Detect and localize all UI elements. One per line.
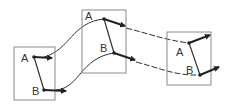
velocity-vector-b bbox=[114, 53, 135, 60]
point-a bbox=[32, 55, 36, 59]
velocity-vector-a bbox=[189, 35, 210, 43]
label-a: A bbox=[85, 10, 93, 22]
velocity-vector-b bbox=[200, 67, 219, 75]
frame-1: A B bbox=[14, 47, 66, 100]
frame-3: A B bbox=[167, 32, 219, 85]
point-b bbox=[42, 88, 46, 92]
rigid-body-motion-diagram: A B A B A B bbox=[0, 0, 231, 106]
trajectory-b-1-2 bbox=[56, 53, 114, 90]
frame-box bbox=[167, 32, 211, 85]
label-b: B bbox=[100, 42, 107, 54]
point-a bbox=[187, 41, 191, 45]
label-a: A bbox=[21, 52, 29, 64]
point-a bbox=[102, 17, 106, 21]
velocity-vector-b bbox=[44, 90, 66, 91]
trajectory-a-2-3 bbox=[126, 28, 189, 43]
velocity-vector-a bbox=[104, 19, 125, 26]
label-a: A bbox=[176, 46, 184, 58]
trajectory-a-1-2 bbox=[44, 19, 104, 57]
label-b: B bbox=[32, 85, 39, 97]
point-b bbox=[198, 73, 202, 77]
velocity-vector-a bbox=[34, 57, 52, 58]
point-b bbox=[112, 51, 116, 55]
label-b: B bbox=[186, 64, 193, 76]
